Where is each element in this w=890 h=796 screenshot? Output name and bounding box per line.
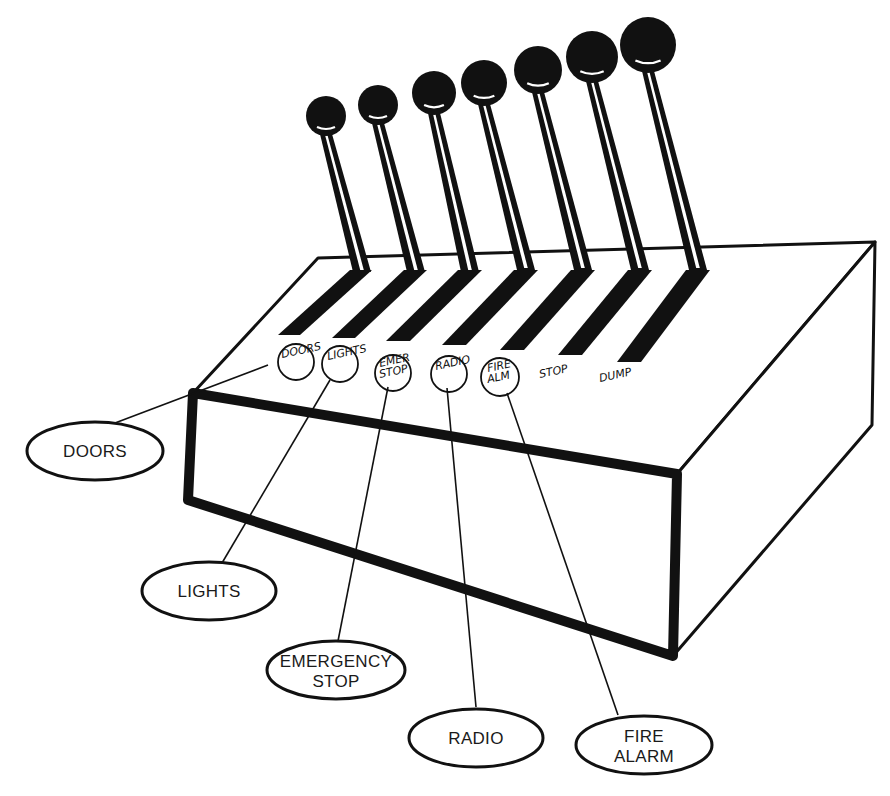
callout-lights: LIGHTS [142,562,276,620]
callout-label-doors: DOORS [63,442,127,461]
callout-emergency-stop: EMERGENCY STOP [267,641,405,699]
callout-doors: DOORS [27,422,163,480]
callout-label-lights: LIGHTS [177,582,240,601]
console-box [188,242,875,656]
lever-knob[interactable] [514,46,562,94]
lever-shaft-highlight [433,113,472,270]
callout-label-emergency-stop-line2: STOP [312,672,359,691]
switch-lever-5: FIREALM [481,357,519,396]
lever-2[interactable] [358,85,425,272]
levers [306,17,707,272]
callout-label-fire-alarm-line2: ALARM [614,747,674,766]
lever-knob[interactable] [461,60,507,106]
callout-fire-alarm: FIRE ALARM [576,716,712,774]
lever-shaft-highlight [537,92,585,268]
callout-label-fire-alarm-line1: FIRE [624,727,664,746]
console-diagram: DOORSLIGHTSEMERSTOPRADIOFIREALMSTOPDUMP … [0,0,890,796]
lever-shaft-highlight [483,104,528,268]
lever-shaft-highlight [591,81,642,268]
lever-knob[interactable] [566,31,618,83]
callout-radio: RADIO [409,709,543,767]
callout-label-emergency-stop-line1: EMERGENCY [280,652,392,671]
lever-knob[interactable] [620,17,676,73]
switch-lever-3: EMERSTOP [375,351,411,391]
lever-shaft-highlight [325,134,364,270]
lever-3[interactable] [412,71,479,272]
lever-shaft-highlight [377,123,418,270]
callout-label-radio: RADIO [448,729,503,748]
lever-shaft-highlight [647,71,700,268]
lever-4[interactable] [461,60,535,270]
lever-1[interactable] [306,96,371,272]
